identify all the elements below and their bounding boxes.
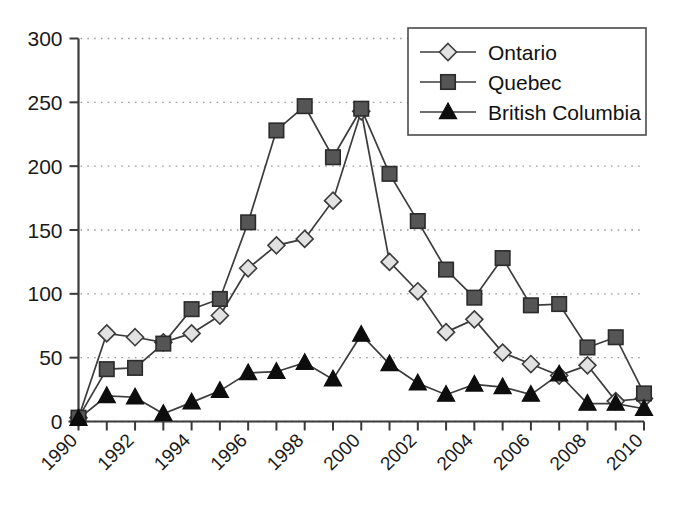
x-tick-label-1998: 1998 xyxy=(263,429,308,474)
data-point-british-columbia-1996 xyxy=(240,364,257,380)
legend: OntarioQuebecBritish Columbia xyxy=(408,28,646,135)
legend-label-2: British Columbia xyxy=(488,101,641,124)
data-point-quebec-1994 xyxy=(184,302,199,317)
data-point-british-columbia-1999 xyxy=(324,370,341,386)
data-point-quebec-1995 xyxy=(213,292,228,307)
data-point-quebec-2002 xyxy=(411,214,426,229)
x-tick-label-1996: 1996 xyxy=(206,429,251,474)
data-point-quebec-2006 xyxy=(524,298,539,313)
data-point-quebec-2009 xyxy=(608,330,623,345)
x-tick-label-1992: 1992 xyxy=(93,429,138,474)
data-point-ontario-1999 xyxy=(324,192,341,209)
x-tick-label-2002: 2002 xyxy=(376,429,421,474)
legend-label-0: Ontario xyxy=(488,41,557,64)
y-tick-label-250: 250 xyxy=(27,91,62,114)
data-point-quebec-2003 xyxy=(439,262,454,277)
x-axis: 1990199219941996199820002002200420062008… xyxy=(37,422,647,475)
data-point-british-columbia-1991 xyxy=(98,387,115,403)
chart-canvas: 0501001502002503001990199219941996199820… xyxy=(0,0,689,507)
x-tick-label-2010: 2010 xyxy=(602,429,647,474)
y-tick-label-50: 50 xyxy=(39,346,62,369)
series-group xyxy=(70,99,653,426)
x-tick-label-2008: 2008 xyxy=(546,429,591,474)
data-point-british-columbia-2002 xyxy=(409,374,426,390)
x-tick-label-2000: 2000 xyxy=(319,429,364,474)
data-point-ontario-1995 xyxy=(211,307,228,324)
data-point-british-columbia-1992 xyxy=(127,388,144,404)
line-chart: 0501001502002503001990199219941996199820… xyxy=(0,0,689,507)
x-tick-label-1994: 1994 xyxy=(150,429,195,474)
x-tick-label-2006: 2006 xyxy=(489,429,534,474)
data-point-british-columbia-1998 xyxy=(296,354,313,370)
data-point-british-columbia-2003 xyxy=(438,386,455,402)
data-point-ontario-1997 xyxy=(268,237,285,254)
data-point-british-columbia-1994 xyxy=(183,393,200,409)
x-tick-label-2004: 2004 xyxy=(432,429,477,474)
y-tick-label-300: 300 xyxy=(27,27,62,50)
data-point-british-columbia-1993 xyxy=(155,405,172,421)
data-point-quebec-1999 xyxy=(326,150,341,165)
data-point-quebec-2004 xyxy=(467,290,482,305)
data-point-quebec-2007 xyxy=(552,297,567,312)
data-point-british-columbia-1995 xyxy=(211,382,228,398)
data-point-ontario-1998 xyxy=(296,230,313,247)
y-tick-label-100: 100 xyxy=(27,282,62,305)
y-tick-label-200: 200 xyxy=(27,155,62,178)
data-point-quebec-2008 xyxy=(580,340,595,355)
y-tick-label-150: 150 xyxy=(27,219,62,242)
data-point-ontario-1994 xyxy=(183,325,200,342)
data-point-ontario-1992 xyxy=(127,329,144,346)
data-point-ontario-2003 xyxy=(438,324,455,341)
data-point-quebec-1991 xyxy=(100,362,115,377)
data-point-ontario-1996 xyxy=(240,260,257,277)
data-point-quebec-2005 xyxy=(495,251,510,266)
data-point-quebec-1997 xyxy=(269,123,284,138)
data-point-british-columbia-2000 xyxy=(353,326,370,342)
data-point-quebec-2001 xyxy=(382,167,397,182)
data-point-quebec-1998 xyxy=(297,99,312,114)
y-tick-label-0: 0 xyxy=(51,410,63,433)
data-point-quebec-2000 xyxy=(354,101,369,116)
legend-marker-square-icon xyxy=(441,75,456,90)
legend-label-1: Quebec xyxy=(488,71,562,94)
data-point-quebec-1996 xyxy=(241,215,256,230)
data-point-ontario-2008 xyxy=(579,357,596,374)
data-point-british-columbia-2004 xyxy=(466,375,483,391)
y-axis: 050100150200250300 xyxy=(27,27,78,433)
x-tick-label-1990: 1990 xyxy=(37,429,82,474)
data-point-quebec-1992 xyxy=(128,361,143,376)
data-point-quebec-1993 xyxy=(156,336,171,351)
data-point-ontario-1991 xyxy=(98,325,115,342)
